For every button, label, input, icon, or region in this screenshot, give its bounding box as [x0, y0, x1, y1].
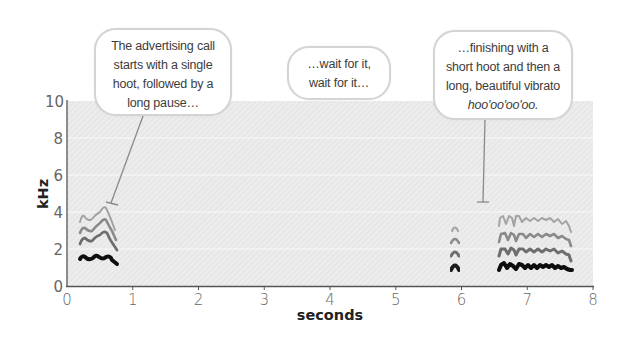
y-axis-label: kHz [35, 179, 51, 209]
x-tick-5: 5 [391, 291, 401, 309]
x-tick-8: 8 [588, 291, 598, 309]
plot-area [67, 101, 593, 286]
callout-last-line-3: long, beautiful vibrato [435, 77, 571, 96]
y-tick-2: 2 [53, 241, 63, 259]
callout-middle-line-1: …wait for it, [289, 55, 389, 74]
y-tick-8: 8 [53, 130, 63, 148]
callout-first-line-3: hoot, followed by a [96, 75, 230, 94]
callout-last-line-2: short hoot and then a [435, 58, 571, 77]
callout-middle: …wait for it, wait for it… [287, 46, 391, 100]
callout-last: …finishing with a short hoot and then a … [433, 30, 573, 120]
x-tick-1: 1 [128, 291, 138, 309]
y-tick-6: 6 [53, 167, 63, 185]
x-tick-3: 3 [259, 291, 269, 309]
callout-first-line-4: long pause… [96, 94, 230, 113]
callout-first-line-2: starts with a single [96, 56, 230, 75]
y-tick-10: 10 [45, 93, 64, 111]
x-tick-6: 6 [457, 291, 467, 309]
callout-first: The advertising call starts with a singl… [94, 28, 232, 116]
callout-middle-line-2: wait for it… [289, 74, 389, 93]
y-tick-0: 0 [53, 278, 63, 296]
y-tick-4: 4 [53, 204, 63, 222]
x-tick-0: 0 [62, 291, 72, 309]
x-tick-2: 2 [194, 291, 204, 309]
callout-last-italic-line: hoo'oo'oo'oo. [435, 96, 571, 115]
x-tick-7: 7 [522, 291, 532, 309]
callout-last-line-1: …finishing with a [435, 39, 571, 58]
x-axis-label: seconds [297, 307, 363, 323]
callout-first-line-1: The advertising call [96, 37, 230, 56]
